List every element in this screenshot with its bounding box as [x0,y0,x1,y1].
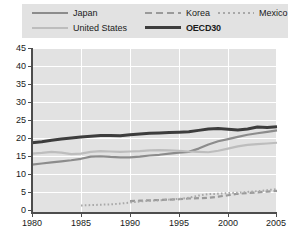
y-tick-label-30: 30 [6,98,26,107]
x-tick-label-1995: 1995 [159,219,199,228]
x-tick-label-1985: 1985 [61,219,101,228]
x-tick-2005 [276,213,277,217]
y-tick-label-10: 10 [6,170,26,179]
legend-row-2: United States OECD30 [22,19,288,36]
x-tick-label-1980: 1980 [12,219,52,228]
x-tick-1995 [179,213,180,217]
y-tick-label-5: 5 [6,188,26,197]
y-axis-labels: 45 40 35 30 25 20 15 10 5 0 [2,0,26,234]
x-tick-label-2005: 2005 [256,219,290,228]
series-group [32,127,277,206]
series-line-mexico [81,189,277,205]
y-tick-label-20: 20 [6,134,26,143]
x-tick-1980 [32,213,33,217]
x-axis-line [31,212,277,214]
japan-line-swatch [32,8,68,18]
series-line-japan [32,130,277,164]
y-tick-label-35: 35 [6,80,26,89]
y-tick-label-45: 45 [6,44,26,53]
plot-area [32,48,277,212]
x-tick-2000 [228,213,229,217]
legend-item-united-states: United States [32,19,127,36]
korea-dashed-swatch [145,8,181,18]
legend-label-oecd30: OECD30 [186,23,221,33]
chart-legend: Japan Korea Mexico United States OECD30 [22,4,288,38]
x-tick-label-2000: 2000 [208,219,248,228]
y-tick-label-15: 15 [6,152,26,161]
y-axis-line [31,48,33,213]
united-states-line-swatch [32,23,68,33]
y-tick-label-0: 0 [6,206,26,215]
mexico-dotted-swatch [218,8,254,18]
series-line-korea [130,191,277,201]
y-tick-label-25: 25 [6,116,26,125]
series-layer [32,48,277,212]
legend-label-mexico: Mexico [259,8,288,18]
legend-label-united-states: United States [73,23,127,33]
legend-label-japan: Japan [73,8,98,18]
x-tick-label-1990: 1990 [110,219,150,228]
x-tick-1990 [130,213,131,217]
series-line-oecd30 [32,127,277,143]
legend-item-oecd30: OECD30 [145,19,221,36]
x-tick-1985 [81,213,82,217]
line-chart-figure: Japan Korea Mexico United States OECD30 [0,0,290,234]
legend-label-korea: Korea [186,8,210,18]
oecd30-line-swatch [145,23,181,33]
y-tick-label-40: 40 [6,62,26,71]
series-line-united-states [32,143,277,154]
